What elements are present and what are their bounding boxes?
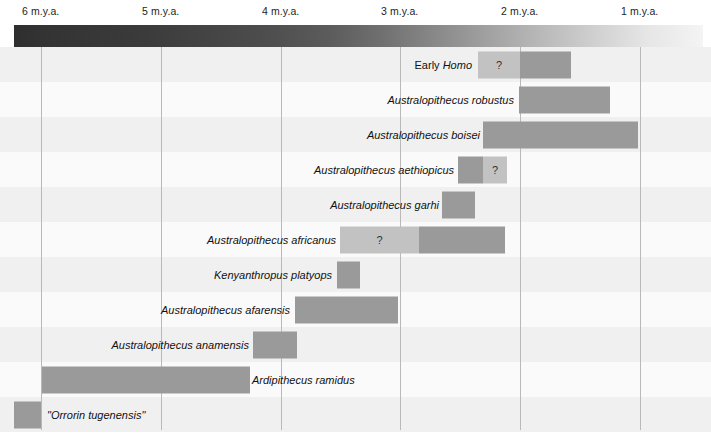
axis-tick-label-5: 5 m.y.a.	[142, 5, 179, 17]
taxon-label-roman-part: Early	[415, 59, 443, 71]
range-bar	[458, 156, 483, 183]
taxon-label-italic-part: Australopithecus robustus	[387, 94, 514, 106]
uncertainty-question-mark: ?	[340, 234, 419, 246]
taxon-label: Ardipithecus ramidus	[252, 374, 368, 386]
taxon-label-italic-part: Australopithecus boisei	[367, 129, 480, 141]
taxon-label-italic-part: Australopithecus africanus	[207, 234, 336, 246]
taxon-label-italic-part: Ardipithecus ramidus	[252, 374, 355, 386]
taxon-label-italic-part: Homo	[443, 59, 472, 71]
taxon-label: "Orrorin tugenensis"	[47, 409, 163, 421]
axis-tick-label-2: 2 m.y.a.	[501, 5, 538, 17]
range-bar	[419, 226, 505, 253]
axis-tick-label-3: 3 m.y.a.	[381, 5, 418, 17]
taxon-row: Kenyanthropus platyops	[0, 257, 711, 292]
range-bar-uncertain: ?	[483, 156, 507, 183]
hominin-timeline-chart: 6 m.y.a. 5 m.y.a. 4 m.y.a. 3 m.y.a. 2 m.…	[0, 0, 711, 446]
taxon-label: Kenyanthropus platyops	[202, 269, 332, 281]
taxon-row: Early Homo?	[0, 47, 711, 82]
taxon-label: Australopithecus africanus	[190, 234, 336, 246]
axis-tick-label-1: 1 m.y.a.	[621, 5, 658, 17]
taxon-label-italic-part: "Orrorin tugenensis"	[47, 409, 145, 421]
taxon-row: Ardipithecus ramidus	[0, 362, 711, 397]
range-bar	[442, 191, 475, 218]
taxon-label: Australopithecus boisei	[352, 129, 480, 141]
range-bar	[42, 366, 250, 393]
taxon-label: Early Homo	[398, 59, 472, 71]
taxon-label-italic-part: Australopithecus afarensis	[161, 304, 290, 316]
range-bar	[519, 86, 610, 113]
range-bar	[337, 261, 360, 288]
uncertainty-question-mark: ?	[478, 59, 520, 71]
range-bar	[253, 331, 297, 358]
range-bar-uncertain: ?	[478, 51, 520, 78]
range-bar-uncertain: ?	[340, 226, 419, 253]
time-gradient-band	[14, 25, 703, 47]
taxon-row: Australopithecus garhi	[0, 187, 711, 222]
taxon-row: Australopithecus robustus	[0, 82, 711, 117]
axis-tick-label-6: 6 m.y.a.	[22, 5, 59, 17]
taxon-row: Australopithecus anamensis	[0, 327, 711, 362]
taxon-label-italic-part: Australopithecus garhi	[330, 199, 439, 211]
taxon-label: Australopithecus anamensis	[101, 339, 249, 351]
taxon-label: Australopithecus aethiopicus	[298, 164, 454, 176]
time-axis: 6 m.y.a. 5 m.y.a. 4 m.y.a. 3 m.y.a. 2 m.…	[0, 0, 711, 24]
taxon-label-italic-part: Kenyanthropus platyops	[214, 269, 332, 281]
taxon-label: Australopithecus afarensis	[148, 304, 290, 316]
plot-area: Early Homo?Australopithecus robustusAust…	[0, 47, 711, 430]
taxon-label: Australopithecus robustus	[370, 94, 514, 106]
taxon-label-italic-part: Australopithecus anamensis	[111, 339, 249, 351]
range-bar	[14, 401, 41, 428]
taxon-label: Australopithecus garhi	[317, 199, 439, 211]
uncertainty-question-mark: ?	[483, 164, 507, 176]
range-bar	[295, 296, 398, 323]
taxon-row: Australopithecus afarensis	[0, 292, 711, 327]
taxon-row: Australopithecus boisei	[0, 117, 711, 152]
taxon-row: "Orrorin tugenensis"	[0, 397, 711, 432]
range-bar	[483, 121, 638, 148]
taxon-row: Australopithecus aethiopicus?	[0, 152, 711, 187]
taxon-label-italic-part: Australopithecus aethiopicus	[314, 164, 454, 176]
taxon-row: Australopithecus africanus?	[0, 222, 711, 257]
axis-tick-label-4: 4 m.y.a.	[262, 5, 299, 17]
range-bar	[520, 51, 571, 78]
